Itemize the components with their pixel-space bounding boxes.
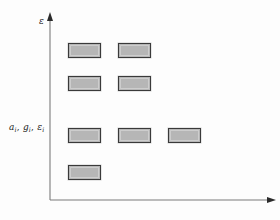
energy-level-diagram: ε ai, gi, εi: [0, 0, 280, 220]
energy-state-box: [118, 128, 151, 143]
energy-state-box: [118, 76, 151, 91]
annotation-sub-epsilon: i: [42, 126, 44, 133]
energy-state-box: [168, 128, 201, 143]
annotation-symbol-a: a: [9, 122, 15, 132]
energy-state-box: [68, 76, 101, 91]
annotation-symbol-g: g: [23, 122, 29, 132]
energy-state-box: [68, 43, 101, 58]
y-axis-arrowhead: [47, 12, 53, 21]
axes-svg: [0, 0, 280, 220]
energy-state-box: [68, 128, 101, 143]
y-axis-label: ε: [39, 17, 44, 26]
level-annotation-label: ai, gi, εi: [9, 123, 44, 132]
energy-state-box: [68, 165, 101, 180]
annotation-sub-a: i: [15, 126, 17, 133]
annotation-sub-g: i: [29, 126, 31, 133]
energy-state-box: [118, 43, 151, 58]
x-axis-arrowhead: [267, 197, 276, 203]
